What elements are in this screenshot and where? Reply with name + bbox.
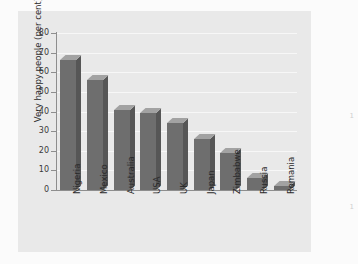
- bar: [167, 123, 183, 190]
- y-axis-tick-label: 30: [19, 126, 49, 135]
- page-margin-mark-bottom: 1: [350, 203, 354, 211]
- x-axis-label: Nigeria: [72, 164, 82, 194]
- y-axis-tick: [51, 112, 56, 113]
- y-axis-tick-label: 10: [19, 165, 49, 174]
- page-margin-mark-top: 1: [350, 112, 354, 120]
- x-axis-label: Russia: [259, 167, 269, 194]
- y-axis-tick-label: 0: [19, 185, 49, 194]
- x-axis-label: Australia: [126, 156, 136, 194]
- y-axis-tick: [51, 131, 56, 132]
- y-axis-tick: [51, 33, 56, 34]
- y-axis-tick: [51, 190, 56, 191]
- bar-side-face: [183, 119, 188, 190]
- y-axis-tick: [51, 151, 56, 152]
- y-axis-tick: [51, 53, 56, 54]
- x-axis-label: Romania: [286, 157, 296, 194]
- y-axis-tick: [51, 170, 56, 171]
- y-axis-tick-label: 20: [19, 146, 49, 155]
- y-axis-tick: [51, 92, 56, 93]
- y-axis-title: Very happy people (per cent): [33, 0, 43, 125]
- bar-front-face: [167, 123, 183, 190]
- x-axis-label: Japan: [206, 170, 216, 194]
- page-background: 1 1 80706050403020100 Very happy people …: [0, 0, 358, 264]
- bar-chart-panel: 80706050403020100 Very happy people (per…: [18, 11, 311, 252]
- x-axis-label: Mexico: [99, 164, 109, 194]
- x-axis-label: UK: [179, 182, 189, 194]
- x-axis-label: USA: [152, 176, 162, 194]
- y-axis-tick: [51, 72, 56, 73]
- x-axis-label: Zimbabwe: [232, 149, 242, 194]
